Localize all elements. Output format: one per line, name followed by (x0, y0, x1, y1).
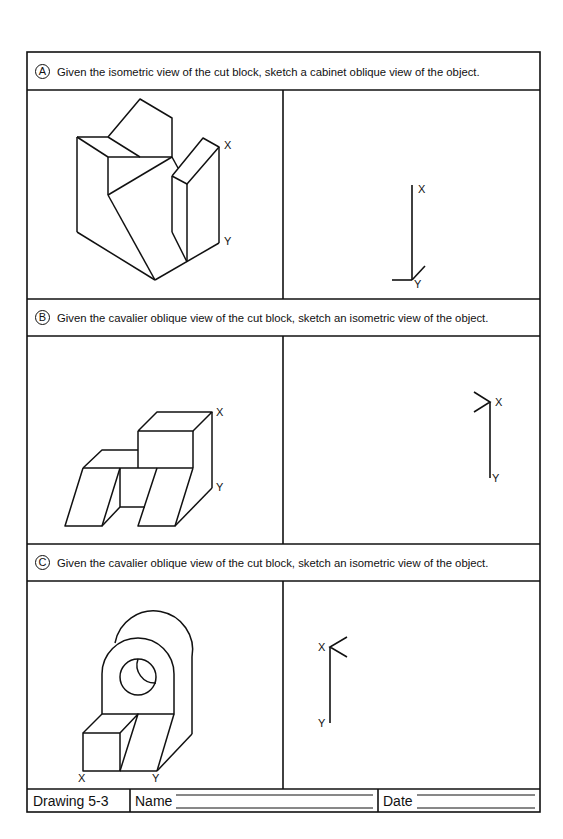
b-left-x-label: X (216, 406, 223, 418)
c-left-y-label: Y (152, 772, 159, 784)
date-field[interactable] (417, 789, 535, 812)
section-c-instruction: Given the cavalier oblique view of the c… (57, 557, 488, 569)
b-right-y-label: Y (492, 472, 499, 484)
section-a-header: A Given the isometric view of the cut bl… (27, 53, 540, 90)
axes-b-answer (474, 392, 490, 478)
section-c-badge: C (35, 555, 50, 570)
a-right-x-label: X (418, 183, 425, 195)
b-left-y-label: Y (216, 481, 223, 493)
section-b-badge: B (35, 310, 50, 325)
frame (27, 52, 540, 812)
c-right-y-label: Y (318, 717, 325, 729)
name-label: Name (135, 789, 172, 812)
c-left-x-label: X (78, 772, 85, 784)
section-b-header: B Given the cavalier oblique view of the… (27, 299, 540, 336)
axes-c-answer (330, 637, 347, 723)
object-b-cavalier (65, 412, 212, 526)
b-right-x-label: X (495, 396, 502, 408)
a-left-y-label: Y (224, 235, 231, 247)
section-c-header: C Given the cavalier oblique view of the… (27, 544, 540, 581)
c-right-x-label: X (318, 641, 325, 653)
a-right-y-label: Y (414, 278, 421, 290)
object-c-cavalier (83, 611, 193, 771)
section-a-badge: A (35, 64, 50, 79)
axes-a-answer (392, 185, 425, 280)
date-label: Date (383, 789, 413, 812)
drawing-number: Drawing 5-3 (33, 789, 108, 812)
worksheet: A Given the isometric view of the cut bl… (0, 0, 563, 839)
object-a-isometric (77, 99, 219, 280)
name-field[interactable] (176, 789, 373, 812)
section-a-instruction: Given the isometric view of the cut bloc… (57, 66, 480, 78)
worksheet-lines (0, 0, 563, 839)
section-b-instruction: Given the cavalier oblique view of the c… (57, 312, 488, 324)
a-left-x-label: X (224, 139, 231, 151)
